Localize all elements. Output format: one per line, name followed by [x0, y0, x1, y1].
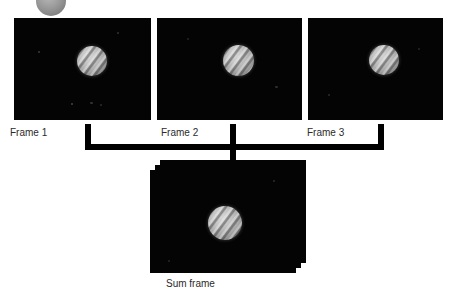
sum-frame-image: [150, 170, 296, 273]
noise-speck: [187, 38, 189, 40]
noise-speck: [117, 32, 119, 34]
frame-2-image: [157, 18, 302, 120]
noise-speck: [273, 180, 275, 182]
frame-3-label: Frame 3: [307, 127, 344, 139]
corner-circle-icon: [36, 0, 66, 16]
noise-speck: [168, 260, 170, 262]
frame-2-label: Frame 2: [161, 127, 198, 139]
sum-frame-label: Sum frame: [166, 278, 215, 290]
noise-speck: [90, 102, 93, 104]
noise-speck: [100, 104, 102, 106]
planet-disc: [369, 45, 399, 75]
noise-speck: [38, 51, 40, 53]
frame-1-label: Frame 1: [10, 127, 47, 139]
frame-1-image: [14, 18, 151, 120]
frame-3-image: [308, 18, 443, 120]
diagram-canvas: Frame 1 Frame 2 Frame 3 Sum frame: [0, 0, 457, 299]
noise-speck: [328, 94, 330, 96]
planet-disc: [223, 45, 254, 76]
planet-disc: [77, 46, 107, 76]
noise-speck: [71, 103, 73, 105]
noise-speck: [275, 86, 278, 88]
noise-speck: [418, 48, 420, 50]
planet-disc: [208, 206, 242, 240]
